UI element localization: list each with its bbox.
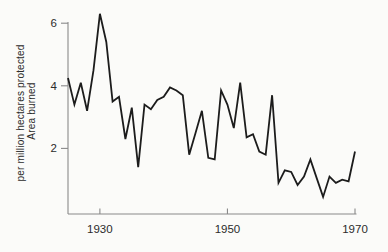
x-tick-label: 1950 bbox=[215, 223, 241, 235]
y-axis-label-line1: Area burned bbox=[26, 82, 37, 139]
data-series bbox=[68, 14, 355, 197]
area-burned-series-line bbox=[68, 14, 355, 197]
axes: 642193019501970 bbox=[51, 17, 368, 235]
chart-figure: 642193019501970 Area burned per million … bbox=[0, 0, 388, 252]
area-burned-line-chart: 642193019501970 Area burned per million … bbox=[0, 0, 388, 252]
y-axis-label-line2: per million hectares protected bbox=[15, 44, 26, 181]
x-tick-label: 1970 bbox=[342, 223, 368, 235]
y-tick-label: 2 bbox=[51, 142, 57, 154]
x-tick-label: 1930 bbox=[87, 223, 113, 235]
y-tick-label: 4 bbox=[51, 80, 58, 92]
y-tick-label: 6 bbox=[51, 17, 57, 29]
